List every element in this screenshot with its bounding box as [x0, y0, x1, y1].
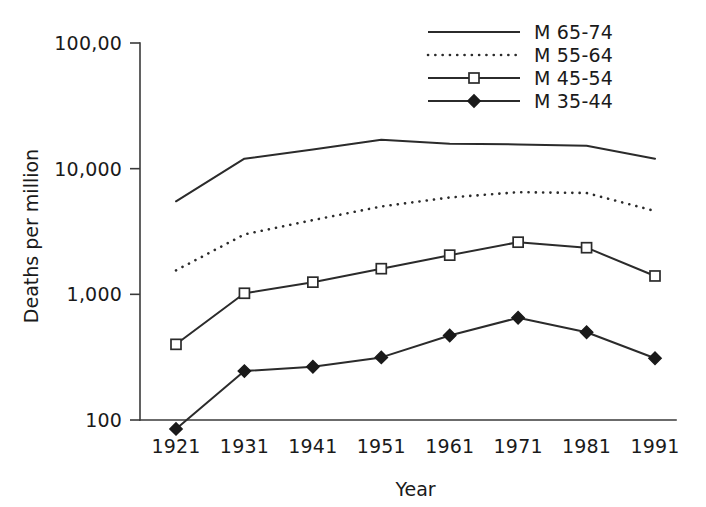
- y-tick-labels: 100,0010,0001,000100: [54, 32, 122, 431]
- data-point-marker: [308, 277, 318, 287]
- legend-label: M 65-74: [534, 21, 613, 43]
- data-point-marker: [649, 352, 661, 364]
- x-tick-label: 1931: [220, 435, 269, 457]
- y-axis-title: Deaths per million: [20, 149, 42, 323]
- chart-canvas: 100,0010,0001,000100 Deaths per million …: [0, 0, 706, 507]
- data-point-marker: [580, 326, 592, 338]
- series-path: [176, 192, 655, 270]
- data-point-marker: [512, 312, 524, 324]
- series-m-55-64: [176, 192, 655, 270]
- data-point-marker: [513, 237, 523, 247]
- x-tick-labels: 19211931194119511961197119811991: [151, 435, 679, 457]
- x-tick-label: 1971: [494, 435, 543, 457]
- legend-item-m-45-54[interactable]: M 45-54: [424, 63, 614, 89]
- data-point-marker: [239, 288, 249, 298]
- legend-item-m-35-44[interactable]: M 35-44: [424, 86, 614, 112]
- data-point-marker: [375, 351, 387, 363]
- legend-swatch-marker: [469, 73, 479, 83]
- x-tick-label: 1991: [630, 435, 679, 457]
- legend-label: M 45-54: [534, 67, 613, 89]
- data-point-marker: [445, 250, 455, 260]
- x-tick-label: 1981: [562, 435, 611, 457]
- x-axis-group: 19211931194119511961197119811991 Year: [140, 420, 680, 500]
- x-axis-title: Year: [394, 478, 435, 500]
- line-chart: 100,0010,0001,000100 Deaths per million …: [0, 0, 706, 507]
- data-point-marker: [444, 329, 456, 341]
- data-point-marker: [582, 243, 592, 253]
- plot-area: [170, 140, 661, 435]
- legend-label: M 55-64: [534, 44, 613, 66]
- x-tick-label: 1941: [288, 435, 337, 457]
- x-tick-label: 1921: [151, 435, 200, 457]
- y-tick-label: 1,000: [67, 283, 122, 305]
- data-point-marker: [376, 264, 386, 274]
- chart-legend: M 65-74M 55-64M 45-54M 35-44: [424, 17, 614, 112]
- x-tick-label: 1961: [425, 435, 474, 457]
- legend-item-m-65-74[interactable]: M 65-74: [424, 17, 614, 43]
- data-point-marker: [307, 361, 319, 373]
- x-tick-label: 1951: [357, 435, 406, 457]
- y-tick-label: 10,000: [54, 158, 122, 180]
- legend-item-m-55-64[interactable]: M 55-64: [424, 40, 614, 66]
- series-path: [176, 140, 655, 202]
- data-point-marker: [171, 339, 181, 349]
- legend-label: M 35-44: [534, 90, 613, 112]
- y-axis-group: 100,0010,0001,000100 Deaths per million: [20, 32, 140, 431]
- series-m-35-44: [170, 312, 661, 436]
- y-tick-label: 100,00: [54, 32, 122, 54]
- data-point-marker: [650, 271, 660, 281]
- y-tick-marks: [130, 43, 140, 420]
- series-m-65-74: [176, 140, 655, 202]
- y-tick-label: 100: [85, 409, 122, 431]
